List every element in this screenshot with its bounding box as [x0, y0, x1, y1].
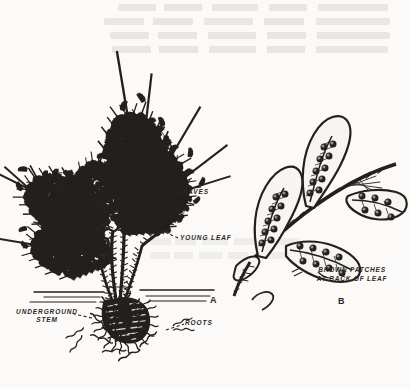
fern-fronds	[0, 45, 254, 297]
pinna-right	[346, 190, 406, 221]
panel-letter-b: B	[338, 296, 345, 307]
label-underground-stem-line1: UNDERGROUND	[16, 308, 78, 315]
caption-brown-patches-line1: BROWN PATCHES	[318, 266, 386, 273]
label-underground-stem: UNDERGROUND STEM	[16, 308, 78, 323]
pinna-top	[303, 116, 351, 208]
panel-letter-a: A	[210, 295, 217, 306]
caption-brown-patches-line2: AT BACK OF LEAF	[317, 275, 387, 282]
caption-brown-patches: BROWN PATCHES AT BACK OF LEAF	[298, 266, 406, 284]
label-underground-stem-line2: STEM	[36, 316, 58, 323]
label-roots: ROOTS	[185, 319, 213, 327]
illustration-page: LEAVES YOUNG LEAF UNDERGROUND STEM ROOTS…	[0, 0, 410, 388]
label-leaves: LEAVES	[178, 188, 209, 196]
label-young-leaf: YOUNG LEAF	[180, 234, 232, 242]
